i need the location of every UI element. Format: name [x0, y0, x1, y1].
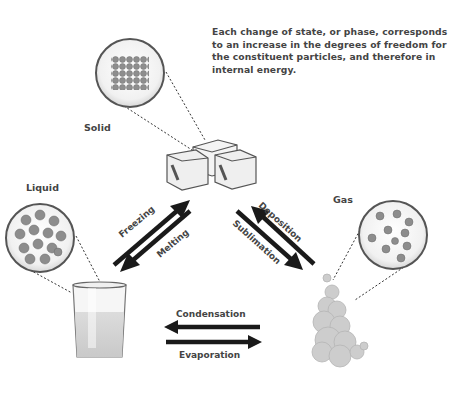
melting-label: Melting — [155, 227, 191, 259]
steam-cloud-image — [312, 274, 368, 367]
solid-particles — [111, 56, 149, 90]
condensation-arrow — [164, 320, 260, 334]
solid-magnifier — [96, 39, 205, 150]
liquid-magnifier — [6, 204, 100, 293]
condensation-label: Condensation — [176, 309, 246, 319]
glass-of-water-image — [73, 282, 126, 357]
gas-magnifier — [333, 201, 427, 300]
evaporation-label: Evaporation — [179, 350, 240, 360]
ice-cubes-image — [167, 140, 256, 190]
deposition-arrow — [251, 206, 314, 264]
sublimation-arrow — [237, 211, 303, 270]
evaporation-arrow — [166, 335, 262, 349]
